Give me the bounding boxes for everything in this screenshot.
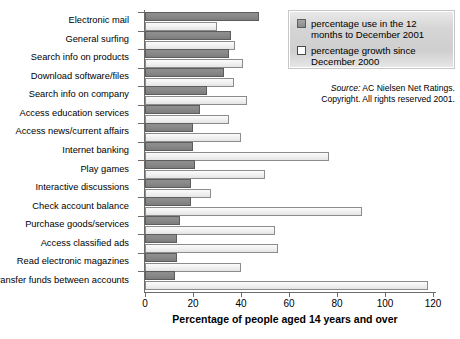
y-axis-tick: [138, 105, 144, 106]
category-label: Search info on company: [29, 89, 129, 99]
bar-use[interactable]: [145, 216, 180, 225]
legend-swatch-growth-icon: [297, 46, 306, 55]
bar-group: [145, 105, 440, 124]
x-axis-tick: [433, 292, 434, 297]
y-axis-tick: [138, 86, 144, 87]
x-axis-tick: [241, 292, 242, 297]
chart-figure: Electronic mailGeneral surfingSearch inf…: [0, 0, 460, 339]
bar-group: [145, 160, 440, 179]
bar-use[interactable]: [145, 179, 191, 188]
y-axis-tick: [138, 49, 144, 50]
bar-use[interactable]: [145, 234, 177, 243]
x-axis-tick: [385, 292, 386, 297]
bar-group: [145, 216, 440, 235]
bar-use[interactable]: [145, 123, 193, 132]
y-axis-tick: [138, 197, 144, 198]
bar-use[interactable]: [145, 105, 200, 114]
category-label: Access education services: [19, 108, 129, 118]
x-axis-tick-label: 40: [221, 298, 261, 309]
x-axis-title: Percentage of people aged 14 years and o…: [0, 313, 460, 325]
category-label: Play games: [80, 164, 129, 174]
y-axis-tick: [138, 142, 144, 143]
bar-group: [145, 234, 440, 253]
category-label: Access classified ads: [41, 238, 129, 248]
source-line-2: Copyright. All rights reserved 2001.: [250, 94, 455, 105]
source-line-1-rest: AC Nielsen Net Ratings.: [360, 83, 455, 93]
category-label: Electronic mail: [69, 15, 129, 25]
legend-swatch-use-icon: [297, 19, 306, 28]
y-axis-tick: [138, 253, 144, 254]
y-axis-tick: [138, 234, 144, 235]
bar-group: [145, 253, 440, 272]
x-axis-tick-label: 100: [365, 298, 405, 309]
category-label: Read electronic magazines: [17, 256, 129, 266]
bar-group: [145, 179, 440, 198]
x-axis-tick: [145, 292, 146, 297]
y-axis-tick: [138, 68, 144, 69]
source-line-1: Source: AC Nielsen Net Ratings.: [250, 83, 455, 94]
x-axis-tick: [289, 292, 290, 297]
bar-use[interactable]: [145, 253, 177, 262]
category-axis-labels: Electronic mailGeneral surfingSearch inf…: [0, 12, 134, 290]
legend: percentage use in the 12 months to Decem…: [289, 11, 454, 68]
x-axis-tick: [193, 292, 194, 297]
legend-label-use: percentage use in the 12 months to Decem…: [311, 18, 447, 40]
x-axis-tick-label: 120: [413, 298, 453, 309]
bar-use[interactable]: [145, 49, 229, 58]
source-note: Source: AC Nielsen Net Ratings. Copyrigh…: [250, 83, 455, 104]
y-axis-tick: [138, 216, 144, 217]
bar-use[interactable]: [145, 12, 259, 21]
bar-use[interactable]: [145, 160, 195, 169]
category-label: Purchase goods/services: [25, 219, 129, 229]
y-axis-tick: [138, 160, 144, 161]
y-axis-tick: [138, 31, 144, 32]
bar-group: [145, 123, 440, 142]
bar-use[interactable]: [145, 86, 207, 95]
bar-growth[interactable]: [145, 281, 428, 290]
bar-group: [145, 142, 440, 161]
x-axis-tick: [337, 292, 338, 297]
bar-use[interactable]: [145, 31, 231, 40]
y-axis-tick: [138, 123, 144, 124]
bar-group: [145, 271, 440, 290]
bar-use[interactable]: [145, 271, 175, 280]
x-axis-tick-label: 60: [269, 298, 309, 309]
source-label: Source:: [331, 83, 361, 93]
x-axis-tick-label: 20: [173, 298, 213, 309]
category-label: Access news/current affairs: [15, 126, 129, 136]
category-label: General surfing: [65, 34, 129, 44]
x-axis-line: [144, 292, 436, 293]
category-label: Check account balance: [32, 201, 129, 211]
bar-group: [145, 197, 440, 216]
x-axis-tick-label: 0: [125, 298, 165, 309]
x-axis-tick-label: 80: [317, 298, 357, 309]
category-label: Internet banking: [62, 145, 129, 155]
category-label: Search info on products: [31, 52, 129, 62]
category-label: Interactive discussions: [35, 182, 129, 192]
bar-use[interactable]: [145, 197, 191, 206]
y-axis-tick: [138, 271, 144, 272]
legend-item-use[interactable]: percentage use in the 12 months to Decem…: [297, 18, 447, 40]
bar-use[interactable]: [145, 142, 193, 151]
legend-label-growth: percentage growth since December 2000: [311, 45, 447, 67]
y-axis-tick: [138, 12, 144, 13]
legend-item-growth[interactable]: percentage growth since December 2000: [297, 45, 447, 67]
bar-use[interactable]: [145, 68, 224, 77]
category-label: Download software/files: [31, 71, 129, 81]
category-label: Transfer funds between accounts: [0, 275, 129, 285]
y-axis-tick: [138, 179, 144, 180]
